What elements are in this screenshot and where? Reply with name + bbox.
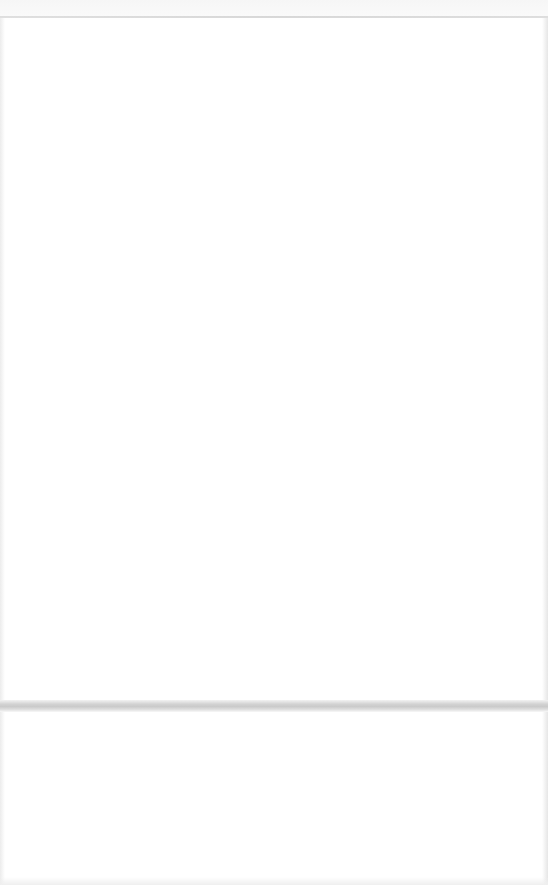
fold-shadow (0, 700, 548, 712)
page-left-edge-shadow (0, 18, 5, 885)
reverse-side-show-through (100, 145, 440, 245)
page-top-edge-line (0, 16, 548, 18)
scanned-page (0, 0, 548, 885)
page-bottom-edge (0, 877, 548, 885)
top-margin (0, 0, 548, 17)
page-right-edge-shadow (542, 18, 548, 885)
